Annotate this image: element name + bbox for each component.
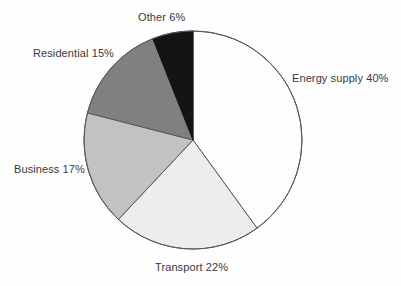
pie-chart-svg [0, 0, 401, 286]
pie-label-business: Business 17% [14, 163, 85, 176]
pie-label-residential: Residential 15% [33, 47, 114, 60]
pie-label-other: Other 6% [138, 11, 185, 24]
pie-slice-group [84, 31, 302, 249]
pie-label-energy-supply: Energy supply 40% [292, 72, 388, 85]
pie-label-transport: Transport 22% [155, 261, 228, 274]
pie-chart-figure: Energy supply 40% Transport 22% Business… [0, 0, 401, 286]
